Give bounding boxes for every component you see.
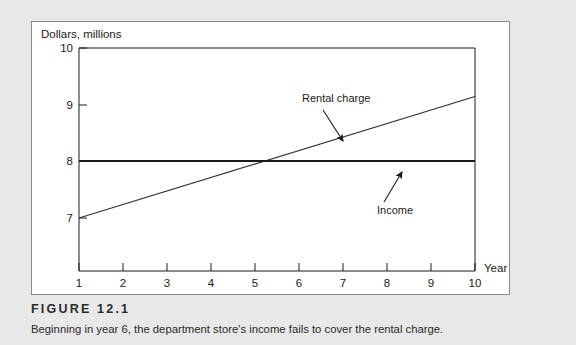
figure-panel: Dollars, millions 10 9 8 7 xyxy=(31,21,510,295)
x-tick-label-9: 9 xyxy=(428,277,434,289)
x-tick-label-5: 5 xyxy=(252,277,258,289)
rental-charge-arrow-icon xyxy=(323,110,343,141)
x-tick-label-7: 7 xyxy=(340,277,346,289)
plot-frame xyxy=(79,48,475,271)
y-tick-label-10: 10 xyxy=(60,42,73,54)
y-axis-ticks xyxy=(79,48,87,218)
series-line-rental-charge xyxy=(79,97,475,219)
income-arrow-icon xyxy=(384,172,402,202)
x-axis-ticks xyxy=(79,263,475,271)
series-label-income: Income xyxy=(377,204,413,216)
annotation-rental-charge: Rental charge xyxy=(302,92,371,141)
x-tick-label-3: 3 xyxy=(164,277,170,289)
annotation-income: Income xyxy=(377,172,413,216)
figure-page: Dollars, millions 10 9 8 7 xyxy=(0,0,576,345)
figure-caption-text: Beginning in year 6, the department stor… xyxy=(31,323,551,335)
figure-number-title: FIGURE 12.1 xyxy=(31,302,551,316)
y-tick-label-9: 9 xyxy=(67,99,73,111)
y-tick-label-7: 7 xyxy=(67,212,73,224)
series-label-rental-charge: Rental charge xyxy=(302,92,371,104)
x-axis-title: Year xyxy=(484,262,507,274)
y-axis-title: Dollars, millions xyxy=(41,28,122,40)
chart-svg: Dollars, millions 10 9 8 7 xyxy=(32,22,509,294)
x-tick-label-4: 4 xyxy=(208,277,215,289)
x-tick-label-10: 10 xyxy=(469,277,482,289)
x-tick-label-8: 8 xyxy=(384,277,390,289)
x-tick-label-2: 2 xyxy=(120,277,126,289)
figure-caption-block: FIGURE 12.1 Beginning in year 6, the dep… xyxy=(31,302,551,335)
x-tick-label-1: 1 xyxy=(76,277,82,289)
y-tick-label-8: 8 xyxy=(67,155,73,167)
x-tick-label-6: 6 xyxy=(296,277,302,289)
